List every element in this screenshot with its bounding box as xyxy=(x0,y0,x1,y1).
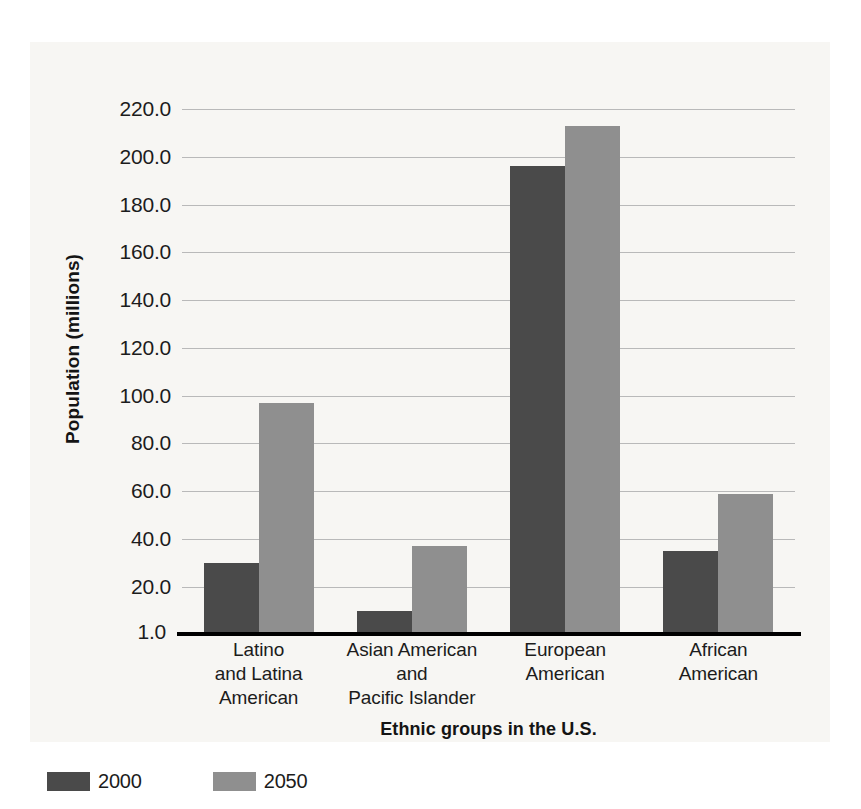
y-axis-tick-label: 140.0 xyxy=(119,288,171,312)
y-axis-tick-label: 180.0 xyxy=(119,193,171,217)
legend-label-2000: 2000 xyxy=(98,770,142,793)
y-axis-tick-label: 200.0 xyxy=(119,145,171,169)
gridline xyxy=(182,396,795,397)
y-axis-baseline-label: 1.0 xyxy=(137,620,166,644)
legend-swatch-2050 xyxy=(213,772,256,791)
gridline xyxy=(182,109,795,110)
gridline xyxy=(182,205,795,206)
y-axis-tick-label: 60.0 xyxy=(131,479,171,503)
y-axis-tick-label: 220.0 xyxy=(119,97,171,121)
gridline xyxy=(182,252,795,253)
legend-label-2050: 2050 xyxy=(264,770,308,793)
legend-item-2000: 2000 xyxy=(47,770,142,793)
category-label-line: and xyxy=(335,662,488,686)
y-axis-tick-label: 100.0 xyxy=(119,384,171,408)
x-axis-line xyxy=(177,632,801,636)
gridline xyxy=(182,300,795,301)
plot-area: 220.0200.0180.0160.0140.0120.0100.080.06… xyxy=(182,90,795,632)
chart-legend: 20002050 xyxy=(47,770,307,793)
legend-swatch-2000 xyxy=(47,772,90,791)
category-label-line: Latino xyxy=(182,638,335,662)
y-axis-tick-label: 80.0 xyxy=(131,431,171,455)
x-axis-title: Ethnic groups in the U.S. xyxy=(182,719,795,740)
bar-2050-3 xyxy=(565,126,620,632)
bar-2000-3 xyxy=(510,166,565,632)
category-label-line: American xyxy=(489,662,642,686)
category-label-line: African xyxy=(642,638,795,662)
x-axis-category-label: EuropeanAmerican xyxy=(489,638,642,686)
bar-chart-figure: Population (millions) 220.0200.0180.0160… xyxy=(0,0,861,809)
category-label-line: American xyxy=(642,662,795,686)
category-label-line: American xyxy=(182,686,335,710)
y-axis-tick-label: 160.0 xyxy=(119,240,171,264)
legend-item-2050: 2050 xyxy=(213,770,308,793)
y-axis-tick-label: 120.0 xyxy=(119,336,171,360)
bar-2000-4 xyxy=(663,551,718,632)
bar-2000-1 xyxy=(204,563,259,632)
category-label-line: and Latina xyxy=(182,662,335,686)
category-label-line: Pacific Islander xyxy=(335,686,488,710)
y-axis-tick-label: 20.0 xyxy=(131,575,171,599)
bar-2050-4 xyxy=(718,494,773,632)
x-axis-category-label: Latinoand LatinaAmerican xyxy=(182,638,335,710)
category-label-line: European xyxy=(489,638,642,662)
x-axis-category-label: Asian AmericanandPacific Islander xyxy=(335,638,488,710)
gridline xyxy=(182,157,795,158)
x-axis-category-label: AfricanAmerican xyxy=(642,638,795,686)
gridline xyxy=(182,348,795,349)
y-axis-title: Population (millions) xyxy=(62,219,84,479)
bar-2000-2 xyxy=(357,611,412,632)
category-label-line: Asian American xyxy=(335,638,488,662)
bar-2050-1 xyxy=(259,403,314,632)
y-axis-tick-label: 40.0 xyxy=(131,527,171,551)
bar-2050-2 xyxy=(412,546,467,632)
